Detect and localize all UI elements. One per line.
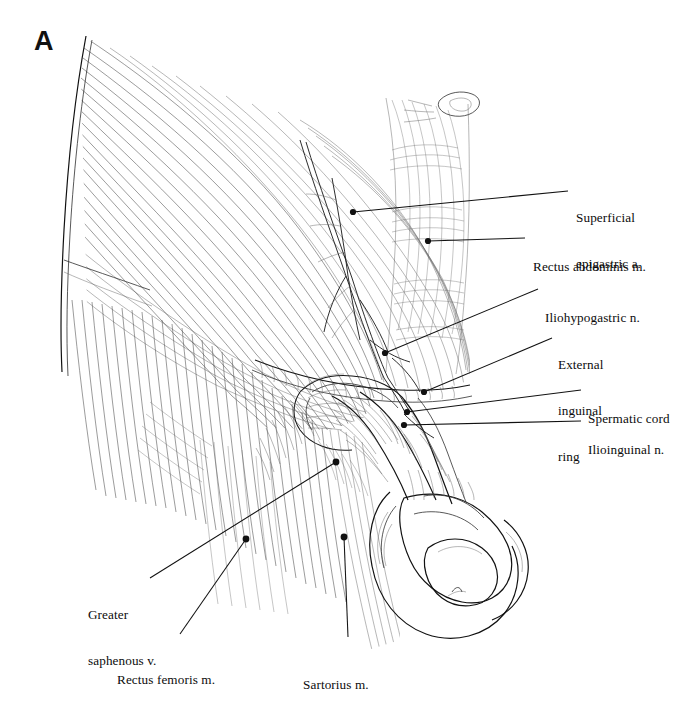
label-line: Rectus femoris m.: [117, 672, 215, 687]
label-line: Rectus abdominis m.: [533, 259, 646, 274]
external-oblique-aponeurosis: [64, 38, 472, 482]
inguinal-region-shading: [256, 400, 422, 496]
leader-rectus-abdominis-m: [428, 238, 525, 241]
label-sartorius-m: Sartorius m.: [303, 646, 369, 703]
leader-spermatic-cord: [407, 390, 581, 412]
dot-rectus-abdominis-m: [425, 238, 431, 244]
leader-sartorius-m: [344, 537, 348, 637]
dot-sartorius-m: [341, 534, 348, 541]
leader-superficial-epigastric-a: [353, 191, 568, 212]
illustration-strokes: [61, 36, 581, 652]
dot-spermatic-cord: [404, 409, 410, 415]
label-ilioinguinal-n: Ilioinguinal n.: [588, 411, 664, 488]
label-rectus-femoris-m: Rectus femoris m.: [117, 641, 215, 703]
label-line: Iliohypogastric n.: [545, 310, 640, 325]
dot-superficial-epigastric-a: [350, 209, 356, 215]
panel-letter-a: A: [34, 28, 54, 55]
label-line: Superficial: [576, 210, 641, 225]
rectus-abdominis-sheath: [386, 98, 469, 374]
leader-external-inguinal-ring: [424, 338, 552, 392]
dot-ilioinguinal-n: [401, 422, 407, 428]
anatomical-figure: .h {fill:none;stroke:#4a4a4a;stroke-widt…: [0, 0, 695, 703]
leader-ilioinguinal-n: [404, 421, 581, 425]
dot-rectus-femoris-m: [243, 536, 250, 543]
leader-lines: [150, 191, 581, 637]
dot-greater-saphenous-v: [333, 459, 340, 466]
inguinal-ligament: [252, 360, 472, 402]
label-line: Ilioinguinal n.: [588, 442, 664, 457]
superficial-epigastric-artery: [306, 178, 360, 340]
dot-iliohypogastric-n: [382, 350, 388, 356]
label-line: Sartorius m.: [303, 677, 369, 692]
dot-external-inguinal-ring: [421, 389, 427, 395]
label-line: Greater: [88, 607, 156, 622]
label-line: External: [558, 357, 603, 372]
